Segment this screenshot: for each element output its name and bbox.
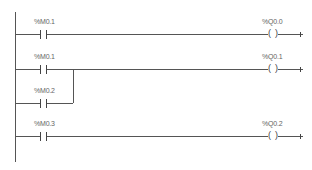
output-coil[interactable]: () xyxy=(268,65,278,74)
rung-wire xyxy=(15,136,303,137)
no-contact[interactable] xyxy=(40,99,47,108)
contact-label: %M0.3 xyxy=(34,120,55,127)
contact-label: %M0.1 xyxy=(34,53,55,60)
output-coil[interactable]: () xyxy=(268,30,278,39)
coil-label: %Q0.1 xyxy=(262,53,282,60)
no-contact[interactable] xyxy=(40,30,47,39)
contact-label: %M0.1 xyxy=(34,18,55,25)
rung-wire xyxy=(15,34,303,35)
rung-end-marker xyxy=(300,32,301,37)
contact-label: %M0.2 xyxy=(34,87,55,94)
rung-end-marker xyxy=(300,134,301,139)
coil-label: %Q0.2 xyxy=(262,120,282,127)
no-contact[interactable] xyxy=(40,132,47,141)
output-coil[interactable]: () xyxy=(268,132,278,141)
no-contact[interactable] xyxy=(40,65,47,74)
rung-wire xyxy=(15,69,303,70)
branch-wire xyxy=(73,69,74,103)
rung-end-marker xyxy=(300,67,301,72)
coil-label: %Q0.0 xyxy=(262,18,282,25)
